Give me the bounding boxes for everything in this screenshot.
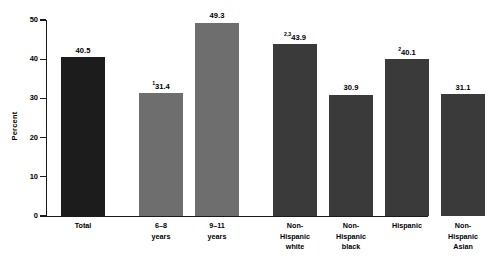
bar: 131.4	[139, 20, 183, 216]
y-axis-tick	[40, 19, 46, 20]
x-axis-category-label: Non- Hispanic Asian	[432, 221, 489, 253]
bar-rect	[385, 59, 429, 216]
bar: 30.9	[329, 20, 373, 216]
bar: 240.1	[385, 20, 429, 216]
x-axis-category-label: Non- Hispanic black	[320, 221, 382, 253]
bar-value-footnote-marker: 2	[398, 46, 401, 52]
y-axis-tick	[40, 176, 46, 177]
bar: 40.5	[61, 20, 105, 216]
y-axis-tick	[40, 98, 46, 99]
y-axis-tick-label: 30	[14, 94, 38, 102]
bar-rect	[273, 44, 317, 216]
x-axis-category-label: 6–8 years	[130, 221, 192, 242]
bar-value-label: 240.1	[398, 47, 416, 56]
bar-value-label: 49.3	[210, 12, 225, 20]
bar-rect	[441, 94, 485, 216]
bar-rect	[139, 93, 183, 216]
y-axis-tick-label: 40	[14, 55, 38, 63]
x-axis-category-label: Non- Hispanic white	[264, 221, 326, 253]
y-axis-tick-label: 10	[14, 173, 38, 181]
y-axis-tick-label: 20	[14, 134, 38, 142]
bar: 49.3	[195, 20, 239, 216]
x-axis-category-label: 9–11 years	[186, 221, 248, 242]
y-axis-tick	[40, 215, 46, 216]
x-axis-category-label: Total	[52, 221, 114, 232]
plot-area: 40.5131.449.32,343.930.9240.131.1	[47, 20, 428, 216]
y-axis-tick-label: 50	[14, 16, 38, 24]
bar-value-label: 30.9	[344, 84, 359, 92]
bar-value-label: 131.4	[152, 81, 170, 90]
y-axis-tick	[40, 137, 46, 138]
bar: 31.1	[441, 20, 485, 216]
bar-value-label: 40.5	[76, 47, 91, 55]
y-axis-tick	[40, 59, 46, 60]
x-axis-category-label: Hispanic	[376, 221, 438, 232]
bar-value-label: 31.1	[456, 84, 471, 92]
bar: 2,343.9	[273, 20, 317, 216]
y-axis-tick-label: 0	[14, 212, 38, 220]
bar-value-footnote-marker: 1	[152, 80, 155, 86]
y-axis-title: Percent	[10, 96, 19, 156]
bar-rect	[195, 23, 239, 216]
bar-value-footnote-marker: 2,3	[284, 31, 291, 37]
bar-value-label: 2,343.9	[284, 32, 306, 41]
bar-rect	[61, 57, 105, 216]
bar-rect	[329, 95, 373, 216]
